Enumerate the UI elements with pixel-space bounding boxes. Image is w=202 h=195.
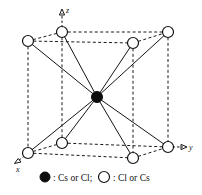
atom-corner-top-right (163, 27, 174, 38)
atom-corner-bottom-left (23, 148, 34, 159)
legend-open-label: : Cl or Cs (113, 173, 150, 183)
cube-edge-bottom-right-back (62, 143, 168, 147)
x-axis-label: x (15, 165, 20, 174)
atom-corner-top-front (128, 38, 139, 49)
atom-corner-top-left (23, 36, 34, 47)
z-axis-arrowhead (59, 9, 64, 15)
unit-cell-diagram: z y x : Cs or Cl; (0, 0, 202, 195)
legend-filled-label: : Cs or Cl; (53, 173, 92, 183)
atom-body-center (92, 92, 103, 103)
legend-open-circle-icon (99, 172, 110, 183)
bond-center-bottom-back (62, 97, 97, 143)
z-axis-label: z (65, 6, 70, 15)
cube-edge-bottom-left-front (28, 153, 133, 158)
bond-center-bottom-front (97, 97, 133, 158)
legend: : Cs or Cl; : Cl or Cs (40, 172, 150, 183)
atom-corner-bottom-right (163, 142, 174, 153)
atom-corner-top-back (57, 27, 68, 38)
bond-center-top-front (97, 43, 133, 97)
legend-filled-circle-icon (40, 172, 50, 182)
cube-edge-top-left-front (28, 41, 133, 43)
atom-corner-bottom-back (57, 138, 68, 149)
y-axis-label: y (188, 143, 193, 152)
crystal-structure-figure: z y x : Cs or Cl; (0, 0, 202, 195)
atom-corner-bottom-front (128, 153, 139, 164)
